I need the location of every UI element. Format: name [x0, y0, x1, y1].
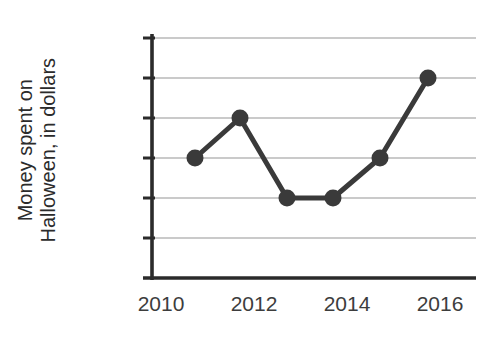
data-point-2012: [232, 110, 249, 127]
x-tick-label-2014: 2014: [324, 292, 371, 316]
data-line-money-spent: [195, 78, 428, 198]
data-point-2016: [420, 70, 437, 87]
data-point-2013: [279, 190, 296, 207]
gridlines: [152, 38, 476, 238]
line-chart: Money spent on Halloween, in dollars: [0, 0, 503, 350]
data-point-2011: [187, 150, 204, 167]
data-point-2014: [325, 190, 342, 207]
x-tick-label-2010: 2010: [138, 292, 185, 316]
data-points: [187, 70, 437, 207]
x-tick-label-2016: 2016: [417, 292, 464, 316]
x-tick-label-2012: 2012: [231, 292, 278, 316]
data-point-2015: [372, 150, 389, 167]
